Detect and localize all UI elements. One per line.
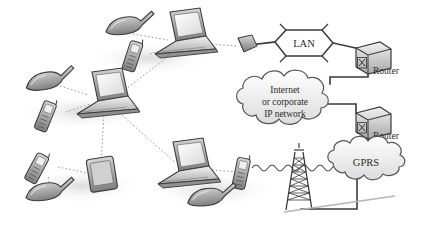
pda-device (86, 156, 118, 193)
internet-cloud-line1: Internet (270, 85, 300, 95)
internet-cloud: Internet or corporate IP network (237, 70, 329, 124)
headset-top (104, 11, 156, 37)
laptop-middle (77, 68, 140, 118)
router-top-label: Router (373, 66, 400, 76)
network-diagram: LAN Router Router Internet or corporate … (0, 0, 430, 225)
gprs-cloud: GPRS (328, 136, 405, 179)
lan-label: LAN (293, 38, 315, 49)
router-top[interactable]: Router (356, 42, 400, 76)
internet-cloud-line3: IP network (264, 109, 306, 119)
laptop-top (155, 8, 218, 58)
laptop-bottom (158, 138, 221, 188)
gprs-label: GPRS (353, 157, 379, 168)
wireless-access-point (238, 35, 257, 52)
diagram-canvas: LAN Router Router Internet or corporate … (0, 0, 430, 225)
internet-cloud-line2: or corporate (262, 97, 308, 107)
lan-segment: LAN (275, 24, 333, 62)
